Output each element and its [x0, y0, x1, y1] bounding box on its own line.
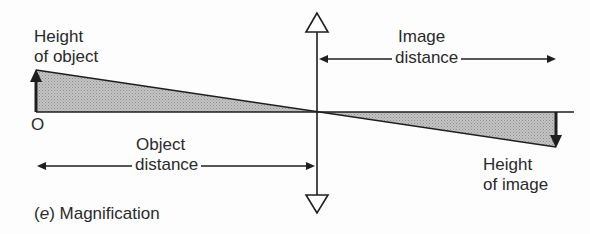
magnification-diagram: Height of object O Object distance Image…: [0, 0, 590, 234]
height-of-object-line2: of object: [34, 47, 98, 67]
height-of-image-line2: of image: [483, 175, 548, 195]
height-of-image-label: Height of image: [483, 155, 548, 195]
image-distance-label: distance: [392, 48, 461, 68]
origin-label: O: [31, 115, 44, 135]
object-label: Object: [136, 135, 185, 155]
height-of-object-line1: Height: [34, 27, 98, 47]
image-label: Image: [398, 27, 445, 47]
height-of-image-line1: Height: [483, 155, 548, 175]
object-distance-label: distance: [132, 155, 201, 175]
figure-caption: (e) Magnification: [34, 204, 160, 224]
lens-bottom-arrow-icon: [306, 195, 328, 213]
caption-text: Magnification: [60, 204, 160, 223]
lens-top-arrow-icon: [306, 13, 328, 32]
height-of-object-label: Height of object: [34, 27, 98, 67]
caption-letter: e: [40, 204, 49, 223]
